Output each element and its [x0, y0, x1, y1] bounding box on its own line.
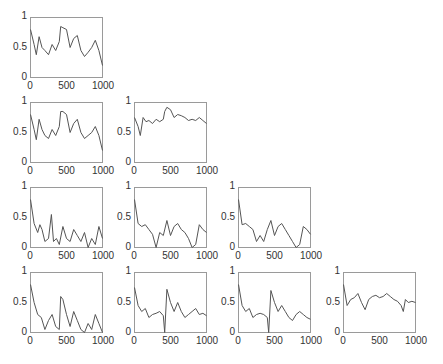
data-line — [135, 107, 207, 135]
y-tick-label: 1 — [316, 266, 340, 276]
data-line — [344, 285, 416, 312]
data-line — [31, 112, 103, 151]
y-tick-label: 1 — [3, 96, 27, 106]
subplot-r4-c2 — [134, 272, 207, 333]
subplot-r2-c1 — [30, 102, 103, 163]
data-line — [239, 200, 311, 248]
y-tick-label: 0.5 — [107, 212, 131, 222]
x-tick-label: 1000 — [88, 251, 118, 261]
data-line — [135, 288, 207, 333]
y-tick-label: 0.5 — [211, 212, 235, 222]
x-tick-label: 1000 — [192, 166, 222, 176]
axes-frame — [239, 188, 311, 248]
x-tick-label: 1000 — [88, 81, 118, 91]
x-tick-label: 0 — [15, 166, 45, 176]
axes-frame — [135, 188, 207, 248]
x-tick-label: 500 — [52, 166, 82, 176]
y-tick-label: 0.5 — [3, 212, 27, 222]
x-tick-label: 0 — [119, 166, 149, 176]
x-tick-label: 0 — [15, 81, 45, 91]
y-tick-label: 1 — [107, 266, 131, 276]
x-tick-label: 0 — [119, 336, 149, 346]
subplot-r4-c3 — [238, 272, 311, 333]
y-tick-label: 1 — [107, 181, 131, 191]
x-tick-label: 500 — [156, 166, 186, 176]
x-tick-label: 500 — [260, 336, 290, 346]
x-tick-label: 1000 — [88, 336, 118, 346]
x-tick-label: 0 — [328, 336, 358, 346]
y-tick-label: 1 — [3, 181, 27, 191]
subplot-r3-c1 — [30, 187, 103, 248]
x-tick-label: 1000 — [192, 336, 222, 346]
x-tick-label: 500 — [52, 336, 82, 346]
x-tick-label: 500 — [156, 336, 186, 346]
axes-frame — [31, 273, 103, 333]
x-tick-label: 0 — [119, 251, 149, 261]
y-tick-label: 0.5 — [3, 297, 27, 307]
x-tick-label: 500 — [365, 336, 395, 346]
y-tick-label: 0.5 — [107, 127, 131, 137]
x-tick-label: 1000 — [88, 166, 118, 176]
x-tick-label: 1000 — [296, 251, 326, 261]
subplot-r4-c4 — [343, 272, 416, 333]
data-line — [135, 200, 207, 248]
data-line — [31, 27, 103, 66]
x-tick-label: 0 — [15, 336, 45, 346]
x-tick-label: 1000 — [192, 251, 222, 261]
x-tick-label: 500 — [52, 81, 82, 91]
y-tick-label: 0.5 — [316, 297, 340, 307]
x-tick-label: 1000 — [296, 336, 326, 346]
subplot-r3-c2 — [134, 187, 207, 248]
x-tick-label: 0 — [223, 251, 253, 261]
data-line — [239, 285, 311, 333]
x-tick-label: 0 — [223, 336, 253, 346]
y-tick-label: 1 — [3, 11, 27, 21]
x-tick-label: 500 — [52, 251, 82, 261]
y-tick-label: 0.5 — [3, 127, 27, 137]
x-tick-label: 500 — [156, 251, 186, 261]
axes-frame — [135, 103, 207, 163]
subplot-r3-c3 — [238, 187, 311, 248]
y-tick-label: 1 — [3, 266, 27, 276]
y-tick-label: 0.5 — [211, 297, 235, 307]
subplot-r4-c1 — [30, 272, 103, 333]
y-tick-label: 1 — [211, 181, 235, 191]
data-line — [31, 285, 103, 333]
subplot-r2-c2 — [134, 102, 207, 163]
x-tick-label: 500 — [260, 251, 290, 261]
y-tick-label: 1 — [211, 266, 235, 276]
y-tick-label: 1 — [107, 96, 131, 106]
x-tick-label: 1000 — [401, 336, 431, 346]
subplot-r1-c1 — [30, 17, 103, 78]
y-tick-label: 0.5 — [107, 297, 131, 307]
data-line — [31, 200, 103, 248]
y-tick-label: 0.5 — [3, 42, 27, 52]
x-tick-label: 0 — [15, 251, 45, 261]
